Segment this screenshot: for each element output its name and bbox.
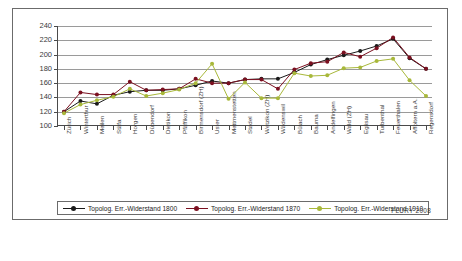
data-point	[391, 57, 395, 61]
data-point	[342, 50, 346, 54]
data-point	[325, 60, 329, 64]
data-point	[292, 71, 296, 75]
y-tick-label: 140	[39, 94, 52, 102]
data-point	[227, 81, 231, 85]
y-tick-label: 240	[39, 22, 52, 30]
data-point	[309, 74, 313, 78]
data-point	[161, 91, 165, 95]
y-tick-label: 200	[39, 51, 52, 59]
data-point	[227, 97, 231, 101]
data-point	[128, 87, 132, 91]
data-point	[111, 95, 115, 99]
data-point	[276, 87, 280, 91]
data-point	[78, 90, 82, 94]
data-point	[194, 81, 198, 85]
data-point	[210, 62, 214, 66]
data-point	[276, 96, 280, 100]
data-point	[292, 68, 296, 72]
data-point	[144, 94, 148, 98]
data-point	[342, 66, 346, 70]
data-point	[375, 59, 379, 63]
chart-legend: Topolog. Err.-Widerstand 1800Topolog. Er…	[57, 201, 429, 215]
data-point	[391, 35, 395, 39]
legend-swatch-icon	[63, 204, 85, 212]
credit-label: FLURY 2008	[391, 207, 431, 214]
data-point	[408, 78, 412, 82]
data-point	[62, 111, 66, 115]
data-point	[243, 80, 247, 84]
data-point	[358, 65, 362, 69]
data-point	[259, 78, 263, 82]
data-point	[161, 88, 165, 92]
data-point	[144, 88, 148, 92]
data-point	[424, 94, 428, 98]
data-point	[309, 61, 313, 65]
data-point	[259, 96, 263, 100]
data-point	[325, 73, 329, 77]
data-point	[276, 77, 280, 81]
y-tick-label: 100	[39, 122, 52, 130]
series-line	[64, 39, 426, 112]
data-point	[424, 67, 428, 71]
legend-label: Topolog. Err.-Widerstand 1870	[211, 205, 300, 212]
legend-swatch-icon	[309, 204, 331, 212]
y-tick-label: 120	[39, 108, 52, 116]
y-tick-label: 220	[39, 37, 52, 45]
legend-swatch-icon	[186, 204, 208, 212]
y-tick-label: 160	[39, 79, 52, 87]
series-line	[64, 59, 426, 113]
chart-screenshot: 100120140160180200220240 ZürichWinterthu…	[0, 0, 462, 261]
series-line	[64, 37, 426, 111]
data-point	[177, 88, 181, 92]
series-layer	[58, 26, 432, 126]
data-point	[210, 81, 214, 85]
data-point	[358, 49, 362, 53]
legend-label: Topolog. Err.-Widerstand 1800	[88, 205, 177, 212]
data-point	[358, 55, 362, 59]
legend-item: Topolog. Err.-Widerstand 1800	[63, 204, 177, 212]
data-point	[408, 55, 412, 59]
data-point	[95, 102, 99, 106]
data-point	[95, 98, 99, 102]
data-point	[78, 103, 82, 107]
data-point	[128, 80, 132, 84]
y-tick-label: 180	[39, 65, 52, 73]
data-point	[95, 93, 99, 97]
data-point	[375, 46, 379, 50]
y-tick	[54, 126, 58, 127]
data-point	[194, 77, 198, 81]
plot-area: 100120140160180200220240 ZürichWinterthu…	[57, 26, 431, 126]
figure-frame: 100120140160180200220240 ZürichWinterthu…	[12, 8, 448, 220]
legend-item: Topolog. Err.-Widerstand 1870	[186, 204, 300, 212]
data-point	[78, 99, 82, 103]
